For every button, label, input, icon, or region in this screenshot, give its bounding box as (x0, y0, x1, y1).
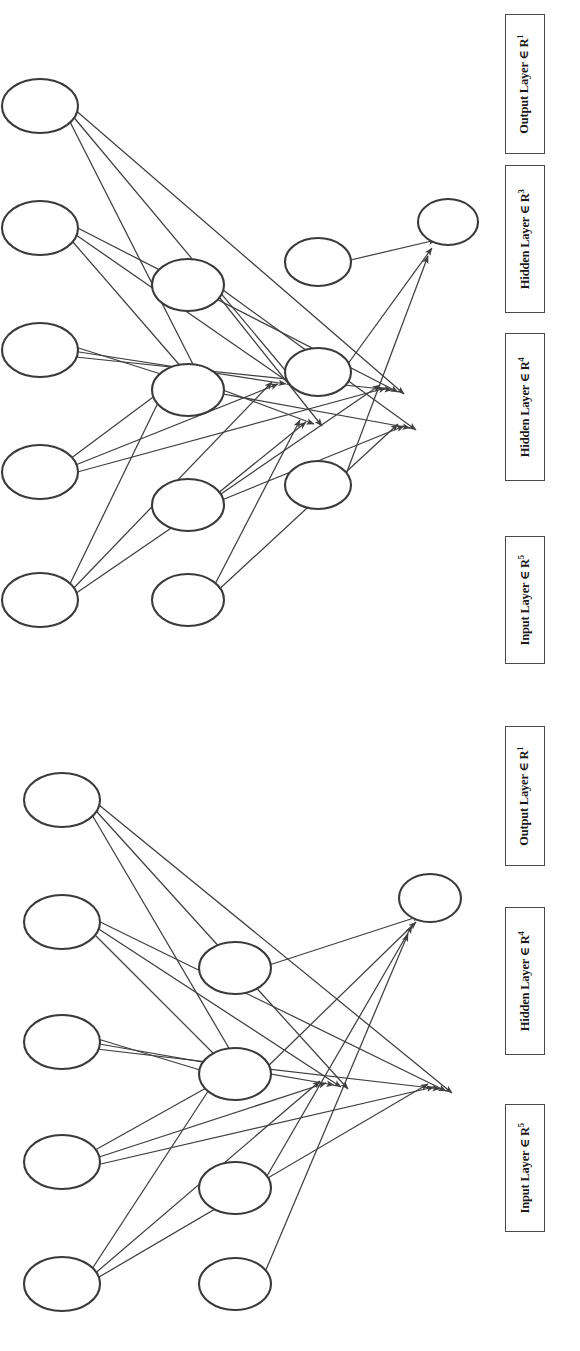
label-shallow-input-layer[interactable]: Input Layer ∈ R5 (505, 1104, 545, 1232)
deep-network-svg (0, 0, 500, 675)
label-deep-output-layer[interactable]: Output Layer ∈ R1 (505, 14, 545, 154)
label-shallow-output-layer[interactable]: Output Layer ∈ R1 (505, 726, 545, 866)
node-input-2 (24, 1015, 100, 1069)
deep-input-layer-nodes (2, 79, 78, 627)
shallow-edges-input-to-hidden (88, 796, 452, 1280)
node-hidden-0 (199, 1258, 271, 1310)
deep-edges-hidden2-to-output (342, 240, 436, 485)
deep-edges-input-to-hidden1 (66, 102, 404, 596)
node-input-3 (2, 201, 78, 255)
node-hidden1-0 (152, 574, 224, 626)
figure-caption-fragment (566, 1151, 580, 1351)
label-deep-hidden2-layer[interactable]: Hidden Layer ∈ R3 (505, 165, 545, 313)
label-deep-input-layer-text: Input Layer ∈ R5 (519, 555, 532, 645)
node-input-2 (2, 323, 78, 377)
node-hidden-3 (199, 942, 271, 994)
node-hidden2-2 (285, 238, 351, 286)
label-shallow-hidden-layer-text: Hidden Layer ∈ R4 (519, 931, 532, 1031)
label-deep-hidden1-layer-text: Hidden Layer ∈ R4 (519, 357, 532, 457)
node-hidden1-1 (152, 479, 224, 531)
node-input-0 (2, 573, 78, 627)
label-shallow-output-layer-text: Output Layer ∈ R1 (519, 746, 532, 845)
node-output-0 (399, 874, 461, 922)
label-deep-hidden2-layer-text: Hidden Layer ∈ R3 (519, 189, 532, 289)
node-input-3 (24, 895, 100, 949)
label-deep-hidden1-layer[interactable]: Hidden Layer ∈ R4 (505, 333, 545, 481)
shallow-output-layer-nodes (399, 874, 461, 922)
node-input-4 (24, 773, 100, 827)
node-input-1 (24, 1135, 100, 1189)
node-hidden-1 (199, 1162, 271, 1214)
figure-canvas: Output Layer ∈ R1 Hidden Layer ∈ R3 Hidd… (0, 0, 580, 1351)
shallow-edges-hidden-to-output (260, 916, 420, 1284)
node-hidden1-2 (152, 364, 224, 416)
node-output-0 (418, 199, 478, 245)
deep-output-layer-nodes (418, 199, 478, 245)
label-deep-input-layer[interactable]: Input Layer ∈ R5 (505, 536, 545, 664)
label-shallow-hidden-layer[interactable]: Hidden Layer ∈ R4 (505, 907, 545, 1055)
label-shallow-input-layer-text: Input Layer ∈ R5 (519, 1123, 532, 1213)
node-hidden2-0 (285, 461, 351, 509)
deep-hidden2-layer-nodes (285, 238, 351, 509)
label-deep-output-layer-text: Output Layer ∈ R1 (519, 34, 532, 133)
node-input-0 (24, 1257, 100, 1311)
node-hidden1-3 (152, 259, 224, 311)
shallow-input-layer-nodes (24, 773, 100, 1311)
deep-network-diagram (0, 0, 500, 675)
node-input-1 (2, 445, 78, 499)
node-hidden2-1 (285, 348, 351, 396)
node-input-4 (2, 79, 78, 133)
shallow-network-diagram (0, 676, 500, 1351)
node-hidden-2 (199, 1048, 271, 1100)
deep-edges-hidden1-to-hidden2 (212, 282, 416, 594)
shallow-hidden-layer-nodes (199, 942, 271, 1310)
shallow-network-svg (0, 676, 500, 1351)
